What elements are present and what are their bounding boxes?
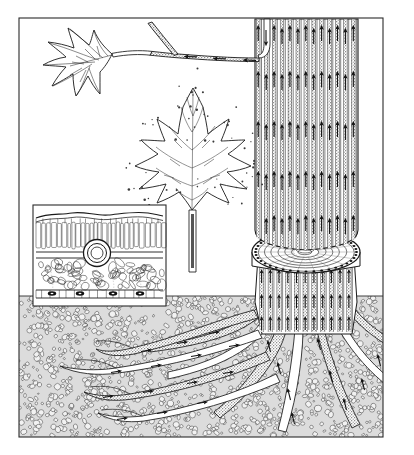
- soil-particle: [47, 404, 51, 408]
- soil-particle: [206, 430, 211, 435]
- vapour-dot: [174, 138, 177, 141]
- soil-particle: [159, 334, 162, 338]
- cambium-dot: [257, 257, 260, 259]
- cambium-dot: [297, 270, 300, 272]
- soil-particle: [117, 380, 121, 384]
- soil-particle: [327, 394, 330, 397]
- vapour-dot: [253, 163, 255, 165]
- cambium-dot: [350, 260, 353, 262]
- soil-particle: [185, 418, 187, 420]
- soil-particle: [38, 409, 44, 415]
- cambium-dot: [312, 270, 315, 272]
- soil-particle: [85, 333, 89, 337]
- vapour-dot: [252, 132, 254, 134]
- vapour-dot: [241, 203, 243, 205]
- soil-particle: [380, 358, 382, 360]
- vapour-dot: [125, 167, 127, 169]
- cambium-dot: [275, 267, 278, 269]
- vapour-dot: [232, 197, 233, 198]
- soil-particle: [366, 371, 370, 375]
- vapour-dot: [227, 204, 228, 205]
- soil-particle: [232, 308, 235, 311]
- vapour-dot: [252, 166, 254, 168]
- vascular-bundle-inner: [91, 247, 103, 259]
- vapour-dot: [196, 108, 198, 110]
- vapour-dot: [129, 163, 131, 165]
- soil-particle: [321, 398, 325, 402]
- soil-particle: [351, 365, 354, 367]
- vapour-dot: [141, 186, 143, 188]
- soil-particle: [34, 333, 38, 338]
- vapour-dot: [128, 188, 131, 191]
- vapour-dot: [189, 105, 191, 107]
- vapour-dot: [188, 118, 190, 120]
- soil-particle: [375, 425, 378, 428]
- soil-particle: [173, 433, 176, 436]
- cambium-dot: [282, 268, 285, 270]
- soil-particle: [37, 393, 39, 394]
- soil-particle: [73, 322, 78, 327]
- vapour-dot: [178, 85, 180, 87]
- soil-particle: [173, 422, 179, 428]
- soil-particle: [305, 358, 307, 360]
- leaf-cross-section-inset: [33, 205, 166, 306]
- soil-particle: [270, 419, 272, 422]
- vapour-dot: [197, 186, 199, 188]
- soil-particle: [341, 373, 344, 375]
- soil-particle: [145, 422, 148, 425]
- soil-particle: [221, 313, 227, 318]
- vapour-dot: [157, 117, 159, 119]
- vapour-dot: [178, 106, 180, 108]
- soil-particle: [76, 360, 82, 365]
- soil-particle: [240, 417, 243, 419]
- soil-particle: [372, 350, 378, 356]
- soil-particle: [27, 309, 29, 311]
- soil-particle: [66, 336, 69, 339]
- soil-particle: [273, 417, 276, 420]
- soil-particle: [267, 423, 272, 427]
- soil-particle: [195, 306, 198, 309]
- soil-particle: [209, 383, 213, 386]
- soil-particle: [300, 422, 304, 426]
- soil-particle: [261, 420, 266, 425]
- soil-particle: [361, 307, 365, 313]
- soil-particle: [298, 414, 303, 420]
- cambium-dot: [257, 245, 260, 247]
- soil-particle: [98, 387, 100, 390]
- soil-particle: [39, 360, 43, 364]
- soil-particle: [59, 315, 64, 320]
- vapour-dot: [226, 124, 228, 126]
- soil-particle: [311, 412, 314, 415]
- vapour-dot: [142, 123, 144, 125]
- vapour-dot: [179, 191, 181, 193]
- vapour-dot: [177, 105, 179, 107]
- soil-particle: [148, 403, 151, 406]
- cambium-dot: [260, 242, 263, 244]
- soil-particle: [36, 309, 41, 314]
- soil-particle: [267, 413, 273, 419]
- soil-particle: [24, 393, 27, 398]
- cambium-dot: [354, 254, 357, 256]
- vapour-dot: [203, 113, 205, 115]
- soil-particle: [77, 396, 80, 400]
- soil-particle: [305, 389, 310, 395]
- soil-particle: [359, 409, 364, 413]
- soil-particle: [88, 328, 90, 330]
- cambium-dot: [289, 270, 292, 272]
- soil-particle: [334, 350, 337, 353]
- vapour-dot: [223, 121, 225, 123]
- soil-particle: [178, 317, 183, 321]
- vapour-dot: [143, 199, 146, 202]
- vapour-dot: [214, 187, 216, 189]
- cambium-dot: [355, 251, 358, 253]
- cambium-dot: [320, 270, 323, 272]
- vapour-dot: [253, 160, 255, 162]
- vapour-dot: [202, 91, 204, 93]
- soil-particle: [36, 424, 41, 428]
- vapour-dot: [244, 147, 246, 149]
- soil-particle: [130, 337, 135, 342]
- soil-particle: [35, 402, 38, 405]
- soil-particle: [372, 426, 375, 428]
- soil-particle: [178, 325, 181, 328]
- soil-particle: [264, 404, 266, 406]
